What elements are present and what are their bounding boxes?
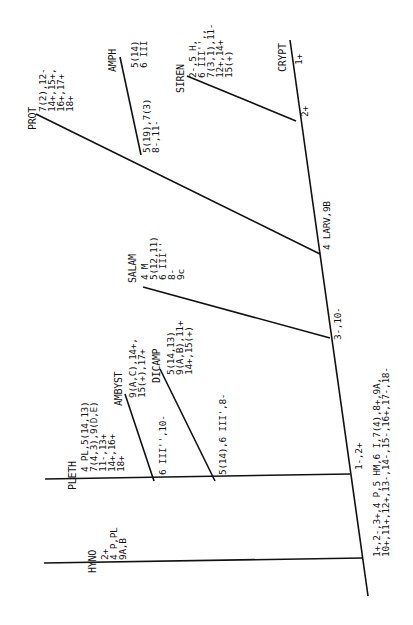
taxon-prot: PROT xyxy=(28,107,37,130)
branch-prot xyxy=(36,114,320,254)
branch-dicamp xyxy=(160,369,215,481)
branch-siren xyxy=(187,76,296,121)
taxon-pleth: PLETH xyxy=(68,461,77,490)
node-amph-prot: 5(19),7(3) 8-,11- xyxy=(142,99,160,153)
node-larv: 4 LARV,9B xyxy=(322,201,331,250)
chars-salam: 4 M 5(12,11) 6 III'' 8- 9c xyxy=(140,237,185,280)
branch-ambyst xyxy=(125,394,154,481)
chars-siren: 2-,5 H, 6 III'',, 7(3,1),11- 12+,14+ 15(… xyxy=(188,24,233,78)
node-pleth: 1-,2+ xyxy=(354,443,363,470)
chars-prot: 7(2),12- 14+,15+, 16+,17+ 18+ xyxy=(38,69,74,112)
branch-pleth xyxy=(45,474,350,479)
node-salam: 3-,10- xyxy=(333,307,342,340)
main-trunk xyxy=(290,40,368,596)
node-root: 1+,2-,3+,4 P,5 HM,6 I,7(4),8+,9A, 10+,11… xyxy=(372,367,390,557)
chars-hyno: 2+ 4 P,PL 9A,B xyxy=(100,527,127,560)
taxon-hyno: HYNO xyxy=(88,550,97,573)
node-ambyst: 6 III'',10- xyxy=(158,415,167,475)
chars-ambyst: 9(A,C),14+, 15(+),17+ xyxy=(128,338,146,398)
chars-dicamp: 5(14,13) 9(A,B),11+ 14+,15(+) xyxy=(166,321,193,375)
taxon-siren: SIREN xyxy=(176,64,185,93)
taxon-salam: SALAM xyxy=(128,254,137,283)
chars-crypt: 1+ xyxy=(294,54,303,65)
taxon-amph: AMPH xyxy=(108,49,117,72)
chars-amph: 5(14) 6 III xyxy=(130,41,148,68)
taxon-dicamp: DICAMP xyxy=(152,349,161,383)
chars-pleth: 4 PL,5(14,13) 7(4,3),9(D,E) 11-,13+ 14+,… xyxy=(80,402,125,472)
branch-amph xyxy=(120,57,141,155)
node-dicamp: 5(14),6 III',8- xyxy=(218,394,227,475)
node-siren-crypt: 2+ xyxy=(300,106,309,117)
taxon-crypt: CRYPT xyxy=(278,43,287,72)
